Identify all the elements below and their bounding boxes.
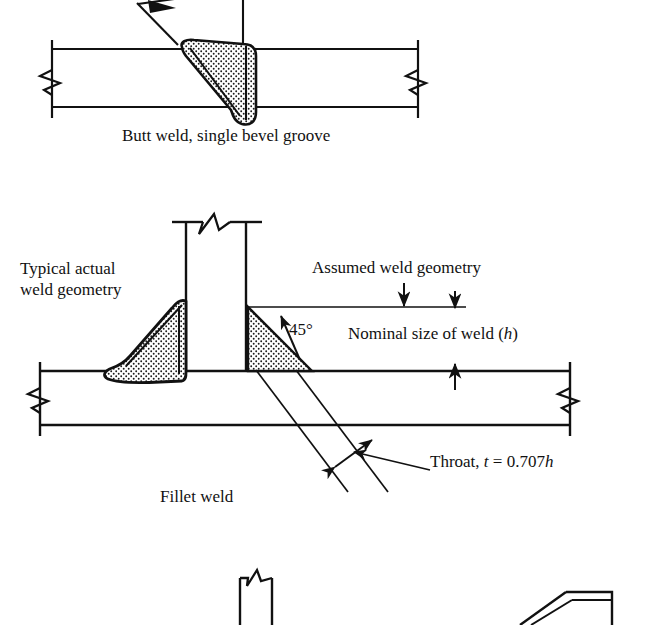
fillet-base-plate-left-break-symbol: [28, 388, 48, 413]
throat-variable-h: h: [545, 452, 554, 471]
bottom-vertical-plate-break-symbol: [240, 570, 272, 586]
weld-geometry-figure: [0, 0, 646, 625]
throat-label: Throat, t = 0.707h: [430, 452, 553, 472]
typical-actual-label-line2: weld geometry: [20, 280, 122, 300]
fillet-base-plate-right-break-symbol: [558, 388, 578, 413]
throat-equals-value: = 0.707: [489, 452, 545, 471]
butt-plate-left-break-symbol: [40, 70, 60, 95]
bottom-right-plate-corner: [520, 592, 612, 625]
angle-45-label: 45°: [289, 320, 313, 340]
bottom-partial-group: [240, 570, 612, 625]
butt-weld-group: [40, 0, 426, 125]
butt-plate-right-break-symbol: [406, 70, 426, 95]
butt-weld-caption: Butt weld, single bevel groove: [122, 126, 330, 146]
nominal-size-of-weld-label: Nominal size of weld (h): [348, 324, 518, 344]
fillet-vertical-plate-break-symbol: [199, 214, 230, 234]
throat-diagonal-line-left: [256, 370, 348, 492]
nominal-size-text-post: ): [512, 324, 518, 343]
nominal-size-text-pre: Nominal size of weld (: [348, 324, 504, 343]
typical-actual-label-line1: Typical actual: [20, 259, 116, 279]
throat-diagonal-line-right: [296, 370, 388, 492]
fillet-weld-group: [28, 214, 578, 492]
butt-weld-leader-line: [137, 0, 210, 45]
throat-text-pre: Throat,: [430, 452, 484, 471]
fillet-weld-caption: Fillet weld: [160, 487, 233, 507]
assumed-weld-geometry-label: Assumed weld geometry: [312, 258, 481, 278]
